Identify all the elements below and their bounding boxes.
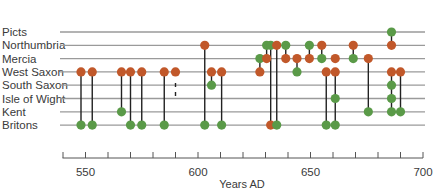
row-label-northumbria: Northumbria xyxy=(2,39,66,51)
event-dot-orange xyxy=(322,67,331,76)
event-dot-orange xyxy=(262,54,271,63)
row-label-picts: Picts xyxy=(2,26,27,38)
event-dot-orange xyxy=(272,41,281,50)
event-dot-orange xyxy=(317,41,326,50)
event-dot-orange xyxy=(255,67,264,76)
tick-label-650: 650 xyxy=(301,166,320,178)
event-dots xyxy=(76,27,405,129)
event-dot-green xyxy=(126,121,135,130)
row-label-kent: Kent xyxy=(2,106,26,118)
event-dot-green xyxy=(387,107,396,116)
row-label-south-saxon: South Saxon xyxy=(2,79,68,91)
event-dot-green xyxy=(387,27,396,36)
event-dot-orange xyxy=(117,67,126,76)
event-dot-orange xyxy=(171,67,180,76)
event-dot-orange xyxy=(160,67,169,76)
row-label-isle-of-wight: Isle of Wight xyxy=(2,93,66,105)
event-dot-orange xyxy=(305,54,314,63)
event-dot-green xyxy=(207,81,216,90)
event-dot-green xyxy=(331,94,340,103)
event-dot-green xyxy=(349,54,358,63)
event-dot-green xyxy=(76,121,85,130)
tick-label-550: 550 xyxy=(76,166,95,178)
event-dot-orange xyxy=(364,54,373,63)
event-dot-green xyxy=(305,41,314,50)
event-dot-green xyxy=(281,41,290,50)
event-dot-green xyxy=(387,94,396,103)
event-dot-orange xyxy=(396,67,405,76)
event-dot-orange xyxy=(76,67,85,76)
event-dot-green xyxy=(137,121,146,130)
event-dot-green xyxy=(117,107,126,116)
event-dot-orange xyxy=(126,67,135,76)
event-dot-orange xyxy=(88,67,97,76)
event-dot-green xyxy=(331,121,340,130)
event-dot-green xyxy=(364,107,373,116)
event-dot-green xyxy=(200,121,209,130)
tick-label-600: 600 xyxy=(188,166,207,178)
x-axis-ticks xyxy=(63,152,423,158)
row-label-mercia: Mercia xyxy=(2,53,37,65)
event-dot-green xyxy=(396,107,405,116)
row-labels: Picts Northumbria Mercia West Saxon Sout… xyxy=(2,26,68,131)
event-dot-green xyxy=(292,67,301,76)
event-dot-orange xyxy=(349,41,358,50)
event-dot-green xyxy=(387,81,396,90)
event-dot-orange xyxy=(292,54,301,63)
event-dot-orange xyxy=(137,67,146,76)
x-axis-title: Years AD xyxy=(219,178,265,189)
row-label-west-saxon: West Saxon xyxy=(2,66,64,78)
event-dot-green xyxy=(322,121,331,130)
event-dot-green xyxy=(317,54,326,63)
event-dot-orange xyxy=(207,67,216,76)
row-label-britons: Britons xyxy=(2,119,38,131)
event-dot-orange xyxy=(200,41,209,50)
event-dot-green xyxy=(160,121,169,130)
event-dot-orange xyxy=(331,54,340,63)
event-dot-green xyxy=(272,121,281,130)
event-dot-green xyxy=(88,121,97,130)
event-dot-orange xyxy=(387,67,396,76)
event-dot-green xyxy=(217,121,226,130)
event-dot-orange xyxy=(281,54,290,63)
battle-timeline-chart: Picts Northumbria Mercia West Saxon Sout… xyxy=(0,0,440,189)
x-axis: 550 600 650 700 Years AD xyxy=(63,152,433,189)
event-dot-orange xyxy=(217,67,226,76)
tick-label-700: 700 xyxy=(413,166,432,178)
event-dot-orange xyxy=(331,67,340,76)
event-dot-orange xyxy=(387,41,396,50)
